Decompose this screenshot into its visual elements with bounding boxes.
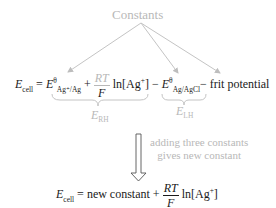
constant-arrows xyxy=(68,23,220,73)
ln-ag-term: ln[Ag xyxy=(113,77,141,91)
equation-cell-potential: Ecell = EθAg⁺/Ag + RT F ln[Ag+] − EθAg/A… xyxy=(15,72,269,99)
rt-over-f-fraction: RT F xyxy=(94,72,110,99)
diagram-lines xyxy=(0,0,276,208)
e-lh-label: ELH xyxy=(176,104,193,119)
arrow-to-e-agcl xyxy=(141,23,178,73)
constants-label: Constants xyxy=(112,7,163,23)
frit-potential-term: frit potential xyxy=(210,77,270,91)
arrow-to-frit xyxy=(141,23,220,73)
e-standard-agcl: E xyxy=(162,77,169,91)
equation-simplified: Ecell = new constant + RT F ln[Ag+] xyxy=(56,182,218,208)
e-rh-label: ERH xyxy=(91,108,109,123)
new-constant-term: new constant xyxy=(87,187,150,201)
arrow-to-e-ag xyxy=(68,23,141,72)
arrow-caption: adding three constants gives new constan… xyxy=(150,136,248,162)
rt-over-f-fraction-2: RT F xyxy=(163,182,179,208)
down-arrow-icon xyxy=(131,134,146,181)
